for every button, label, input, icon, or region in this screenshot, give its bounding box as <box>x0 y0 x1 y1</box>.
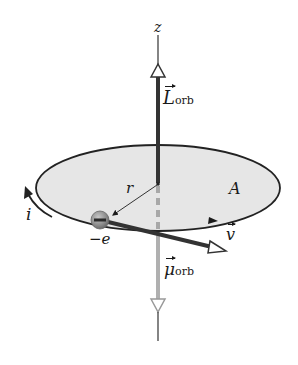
velocity-label: v <box>226 227 235 243</box>
mu-orb-subscript: orb <box>175 265 194 278</box>
area-label: A <box>229 181 241 197</box>
current-arrowhead-icon <box>24 186 33 199</box>
diagram-graphics <box>0 0 298 365</box>
z-axis-label: z <box>154 20 161 34</box>
current-label: i <box>26 206 31 223</box>
mu-orb-arrowhead-icon <box>151 299 165 312</box>
L-orb-label: Lorb <box>163 89 194 107</box>
velocity-arrowhead-icon <box>208 241 226 253</box>
minus-sign-icon <box>94 219 106 222</box>
L-orb-subscript: orb <box>175 94 194 107</box>
charge-label: −e <box>89 232 110 247</box>
orbital-moment-diagram: z Lorb r A i −e v μorb <box>0 0 298 365</box>
L-orb-arrowhead-icon <box>151 64 165 77</box>
mu-orb-label: μorb <box>164 261 194 278</box>
L-orb-symbol: L <box>163 89 175 107</box>
velocity-symbol: v <box>226 227 235 243</box>
mu-orb-symbol: μ <box>164 261 175 278</box>
radius-label: r <box>126 181 133 196</box>
